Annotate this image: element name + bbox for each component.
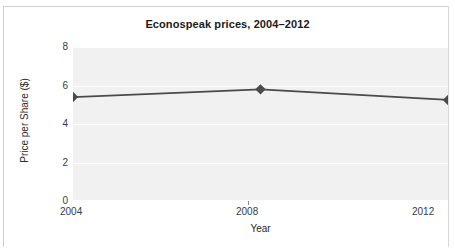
x-tick-label: 2012 — [412, 206, 434, 217]
y-tick-label: 8 — [46, 42, 68, 52]
y-tick-label: 6 — [46, 81, 68, 91]
y-tick-label: 0 — [46, 196, 68, 206]
data-point-marker — [73, 92, 78, 102]
x-axis-title: Year — [73, 223, 448, 234]
x-tick-mark — [248, 201, 249, 205]
chart-page: Econospeak prices, 2004–2012 Price per S… — [0, 0, 455, 249]
data-point-marker — [443, 95, 448, 105]
y-axis-title: Price per Share ($) — [19, 61, 30, 181]
chart-title: Econospeak prices, 2004–2012 — [0, 18, 455, 30]
y-axis-tick-labels: 8 6 4 2 0 — [46, 47, 68, 201]
y-tick-label: 4 — [46, 119, 68, 129]
x-tick-label: 2008 — [236, 206, 258, 217]
series-plot — [73, 47, 448, 201]
plot-area — [73, 47, 448, 201]
x-tick-label: 2004 — [60, 206, 82, 217]
data-point-marker — [255, 84, 265, 94]
y-tick-label: 2 — [46, 158, 68, 168]
line-chart: Econospeak prices, 2004–2012 Price per S… — [0, 0, 455, 249]
x-axis-tick-labels: 2004 2008 2012 — [0, 206, 455, 220]
